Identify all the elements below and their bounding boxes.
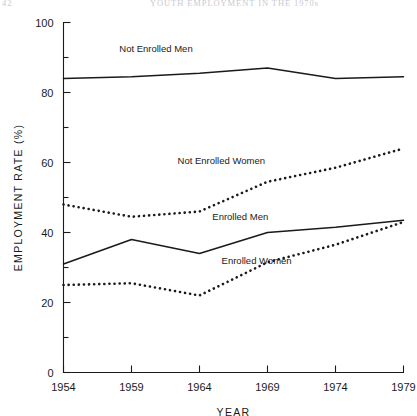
line-chart: 020406080100 195419591964196919741979 No… (0, 0, 417, 416)
series-label-enrolled-men: Enrolled Men (212, 211, 268, 222)
x-tick-label: 1969 (255, 381, 279, 393)
x-axis-title: YEAR (217, 406, 251, 416)
chart-page: 42 YOUTH EMPLOYMENT IN THE 1970s 0204060… (0, 0, 417, 416)
x-axis-tick-labels: 195419591964196919741979 (51, 381, 415, 393)
series-line-not-enrolled-men (64, 68, 404, 79)
chart-svg: 020406080100 195419591964196919741979 No… (0, 0, 417, 416)
y-tick-label: 80 (41, 87, 53, 99)
x-tick-label: 1954 (51, 381, 75, 393)
y-tick-label: 100 (35, 17, 53, 29)
x-tick-label: 1959 (119, 381, 143, 393)
y-tick-label: 40 (41, 227, 53, 239)
y-tick-label: 20 (41, 297, 53, 309)
series-label-not-enrolled-men: Not Enrolled Men (119, 43, 192, 54)
y-axis-tick-labels: 020406080100 (35, 17, 53, 379)
y-tick-label: 0 (47, 367, 53, 379)
x-tick-label: 1974 (323, 381, 347, 393)
series-label-enrolled-women: Enrolled Women (222, 255, 292, 266)
x-tick-label: 1979 (391, 381, 415, 393)
x-tick-label: 1964 (187, 381, 211, 393)
y-axis-title: EMPLOYMENT RATE (%) (12, 124, 24, 271)
series-label-not-enrolled-women: Not Enrolled Women (178, 155, 265, 166)
y-tick-label: 60 (41, 157, 53, 169)
